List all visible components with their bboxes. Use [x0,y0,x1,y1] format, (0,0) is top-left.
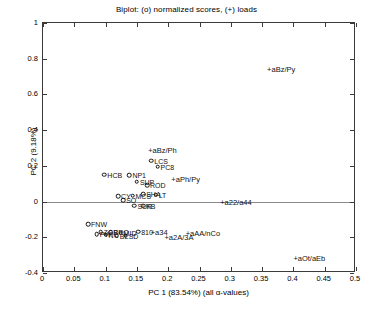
x-tick-label: 0 [40,274,44,283]
score-label: PC8 [161,163,175,170]
y-tick-label: 1 [34,18,38,27]
x-tick-label: 0.35 [254,274,269,283]
score-marker [86,222,91,227]
y-tick [43,130,47,131]
score-label: LT [159,191,167,198]
y-tick [43,23,47,24]
x-tick-label: 0.3 [225,274,235,283]
x-tick [106,267,107,271]
y-tick-label: -0.2 [25,232,38,241]
score-label: SUR [137,202,152,209]
load-label: +aPh/Py [171,174,200,183]
score-label: SD [129,232,139,239]
score-marker [141,192,146,197]
y-tick [43,237,47,238]
x-tick [293,267,294,271]
y-tick [43,166,47,167]
x-tick [293,23,294,27]
score-marker [132,203,137,208]
x-tick [200,23,201,27]
x-tick [231,267,232,271]
x-tick [325,23,326,27]
x-tick [168,23,169,27]
y-tick [43,94,47,95]
y-tick [350,23,354,24]
score-marker [121,198,126,203]
x-tick [137,267,138,271]
score-marker [145,183,150,188]
y-tick [350,94,354,95]
y-tick [350,237,354,238]
y-tick [43,59,47,60]
y-axis-title: PC 2 (9.18%) [29,72,38,232]
y-tick-label: 0.8 [28,53,38,62]
score-marker [116,194,121,199]
x-tick [200,267,201,271]
x-tick-label: 0.25 [191,274,206,283]
score-marker [102,172,107,177]
chart-title: Biplot: (o) normalized scores, (+) loads [0,5,373,14]
score-label: BL [120,232,129,239]
y-tick [350,59,354,60]
x-tick-label: 0.2 [162,274,172,283]
y-tick-label: -0.4 [25,268,38,277]
y-tick [350,166,354,167]
score-label: HCB [107,171,122,178]
x-tick [137,23,138,27]
x-tick [74,23,75,27]
load-label: +a22/a44 [220,197,252,206]
x-tick-label: 0.1 [99,274,109,283]
load-label: +aOt/aEb [293,254,325,263]
x-tick [43,267,44,271]
x-tick [106,23,107,27]
biplot-figure: Biplot: (o) normalized scores, (+) loads… [0,0,373,313]
x-tick [74,267,75,271]
score-label: ROD [150,181,166,188]
x-tick-label: 0.45 [316,274,331,283]
score-marker [95,232,100,237]
load-label: +aBz/Ph [148,146,177,155]
x-axis-title: PC 1 (83.54%) (all α-values) [42,288,355,297]
x-tick [168,267,169,271]
load-label: +aBz/Py [267,65,295,74]
score-marker [149,159,154,164]
score-marker [127,173,132,178]
x-tick [262,23,263,27]
x-tick-label: 0.4 [287,274,297,283]
x-tick [325,267,326,271]
x-tick-label: 0.05 [66,274,81,283]
zero-reference-line [43,202,354,203]
x-tick-label: 0.5 [350,274,360,283]
x-tick-label: 0.15 [129,274,144,283]
y-tick [350,202,354,203]
score-label: FNW [91,221,107,228]
x-tick [262,267,263,271]
score-marker [135,179,140,184]
x-tick [231,23,232,27]
score-label: PW [100,231,111,238]
y-tick [350,130,354,131]
score-marker [155,164,160,169]
load-label: +aAA/nCo [186,228,220,237]
y-tick [43,202,47,203]
plot-area: HCBNP1LCSPC8SUPRODCYMCSSHALTSOKBSURFNWZG… [42,22,355,272]
x-tick [356,23,357,27]
x-tick [356,267,357,271]
score-marker [153,192,158,197]
